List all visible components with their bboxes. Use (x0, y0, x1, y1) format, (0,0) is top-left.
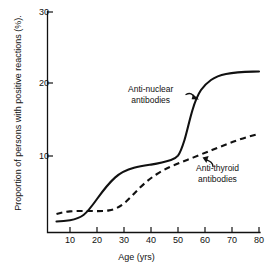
annotation-anti-nuclear-line2: antibodies (128, 95, 173, 106)
x-tick-label-30: 30 (119, 236, 129, 245)
x-tick-label-60: 60 (200, 236, 210, 245)
annotation-anti-thyroid-line2: antibodies (196, 174, 239, 185)
x-tick-label-80: 80 (254, 236, 264, 245)
line-chart-plot (0, 0, 273, 274)
y-tick-label-20: 20 (39, 79, 49, 88)
x-tick-label-10: 10 (65, 236, 75, 245)
axis-spines (48, 12, 261, 233)
annotation-anti-nuclear-line1: Anti-nuclear (128, 84, 173, 95)
annotation-anti-thyroid: Anti-thyroid antibodies (196, 163, 239, 185)
y-tick-label-30: 30 (39, 8, 49, 17)
x-tick-label-70: 70 (227, 236, 237, 245)
x-axis-title: Age (yrs) (0, 252, 273, 262)
y-tick-label-10: 10 (39, 152, 49, 161)
x-tick-label-20: 20 (92, 236, 102, 245)
annotation-anti-thyroid-line1: Anti-thyroid (196, 163, 239, 174)
chart-figure: 30 20 10 10 20 30 40 50 60 70 80 Age (yr… (0, 0, 273, 274)
y-axis-title: Proportion of persons with positive reac… (13, 0, 23, 229)
x-tick-label-40: 40 (146, 236, 156, 245)
x-tick-label-50: 50 (173, 236, 183, 245)
x-tick-marks (70, 227, 259, 233)
annotation-anti-nuclear: Anti-nuclear antibodies (128, 84, 173, 106)
